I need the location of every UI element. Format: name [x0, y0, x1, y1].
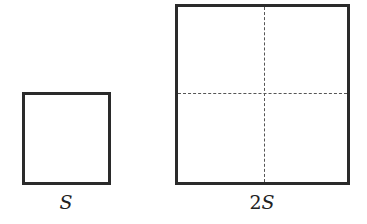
horizontal-dashed-divider	[178, 93, 347, 94]
large-square-label-coefficient: 2	[249, 191, 261, 213]
small-square-label: S	[46, 191, 86, 213]
large-square	[175, 4, 350, 185]
large-square-label: 2S	[242, 191, 282, 213]
large-square-label-variable: S	[262, 191, 275, 213]
vertical-dashed-divider	[264, 7, 265, 182]
small-square	[22, 92, 111, 185]
